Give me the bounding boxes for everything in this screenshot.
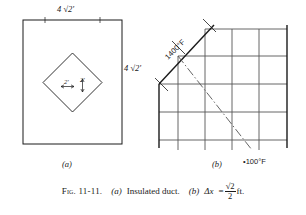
- caption-fraction: √22: [225, 182, 236, 201]
- caption-units: ft.: [237, 186, 245, 196]
- duct-outer-width-label: 4 √2′: [57, 5, 74, 14]
- figure-caption: Fig. 11-11.(a)Insulated duct.(b)Δx=√22ft…: [0, 182, 306, 201]
- cold-point-temperature-label: •100°F: [243, 158, 266, 166]
- caption-part-a-text: Insulated duct.: [127, 186, 180, 196]
- figure-11-11: 4 √2′ 4 √2′ 2′ 2′ (a) 1400°F (b) •100°F …: [0, 0, 306, 215]
- duct-outer-height-label: 4 √2′: [124, 64, 141, 73]
- caption-equals: =: [219, 186, 224, 196]
- outer-square: [23, 20, 122, 144]
- panel-b-drawing: [155, 19, 287, 150]
- caption-part-a-letter: (a): [111, 186, 122, 196]
- symmetry-diagonal: [178, 56, 252, 150]
- caption-delta-x: Δx: [204, 186, 213, 196]
- grid-bottom-extension: [178, 140, 259, 150]
- panel-b-letter: (b): [212, 160, 222, 169]
- panel-a-letter: (a): [62, 160, 72, 169]
- duct-inner-height-label: 2′: [80, 77, 85, 84]
- caption-fraction-denominator: 2: [225, 192, 236, 201]
- duct-inner-width-label: 2′: [64, 79, 69, 86]
- caption-part-b-letter: (b): [189, 186, 200, 196]
- panel-a-drawing: [23, 17, 122, 144]
- caption-figure-number: Fig. 11-11.: [62, 186, 103, 196]
- inner-diamond: [43, 53, 102, 112]
